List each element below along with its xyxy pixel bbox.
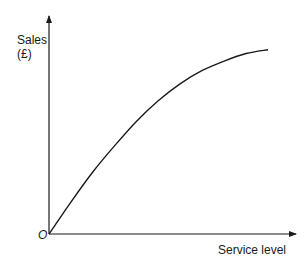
x-axis-label: Service level	[218, 243, 286, 257]
y-axis-label: Sales (£)	[17, 33, 47, 61]
origin-label: O	[38, 228, 47, 242]
sales-curve	[49, 50, 268, 234]
